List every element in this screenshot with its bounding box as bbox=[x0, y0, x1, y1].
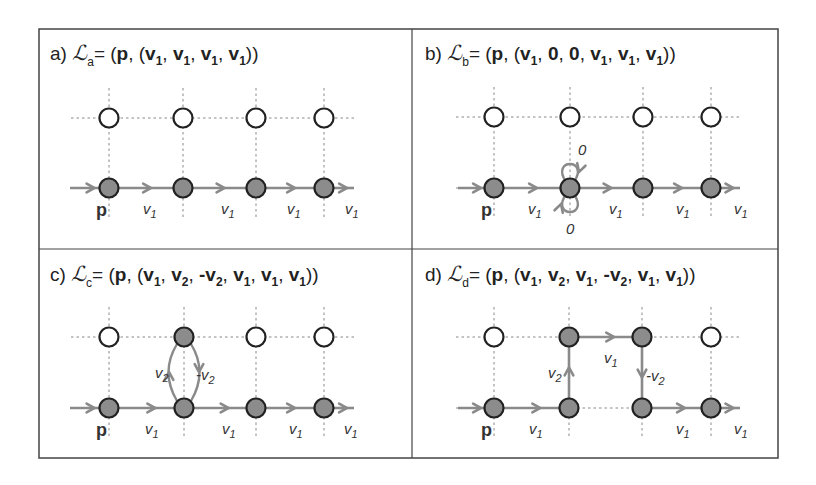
vector-label: v1 bbox=[345, 200, 359, 220]
vector-label: v1 bbox=[528, 200, 542, 220]
panels: a) ℒa= (p, (v1, v1, v1, v1))v1v1v1v1pb) … bbox=[50, 41, 748, 440]
vector-label: v1 bbox=[289, 420, 303, 440]
figure-frame bbox=[39, 29, 778, 458]
visited-node bbox=[175, 399, 194, 418]
start-point-label: p bbox=[481, 200, 492, 220]
lattice-grid bbox=[456, 87, 741, 218]
empty-node bbox=[485, 328, 504, 347]
panel-b: b) ℒb= (p, (v1, 0, 0, v1, v1, v1))v1v1v1… bbox=[425, 41, 748, 237]
visited-node bbox=[633, 399, 652, 418]
vector-label: v1 bbox=[143, 200, 157, 220]
empty-node bbox=[634, 108, 653, 127]
visited-node bbox=[485, 179, 504, 198]
vector-label: v1 bbox=[609, 200, 623, 220]
vector-label: v1 bbox=[221, 200, 235, 220]
vector-label: v1 bbox=[676, 420, 690, 440]
zero-label: 0 bbox=[566, 220, 575, 237]
lattice-grid bbox=[71, 88, 354, 218]
start-point-label: p bbox=[96, 200, 107, 220]
vector-label: v1 bbox=[604, 349, 618, 369]
empty-node bbox=[315, 328, 334, 347]
vector-label: v1 bbox=[734, 200, 748, 220]
vector-label: v1 bbox=[287, 200, 301, 220]
start-point-label: p bbox=[96, 420, 107, 440]
visited-node bbox=[560, 328, 579, 347]
vector-label: v1 bbox=[344, 420, 358, 440]
visited-node bbox=[174, 179, 193, 198]
vector-label: v1 bbox=[222, 420, 236, 440]
zero-label: 0 bbox=[578, 141, 587, 158]
path-segments: v1v1v1v1v2-v2 bbox=[70, 344, 358, 440]
vector-label: v2 bbox=[548, 364, 562, 384]
visited-node bbox=[247, 179, 266, 198]
lattice-nodes bbox=[485, 328, 721, 418]
visited-node bbox=[702, 179, 721, 198]
panel-title: a) ℒa= (p, (v1, v1, v1, v1)) bbox=[50, 41, 258, 69]
visited-node bbox=[315, 179, 334, 198]
arrow-icon bbox=[555, 204, 563, 213]
empty-node bbox=[485, 108, 504, 127]
visited-node bbox=[175, 328, 194, 347]
panel-title: c) ℒc= (p, (v1, v2, -v2, v1, v1, v1)) bbox=[50, 262, 319, 290]
empty-node bbox=[100, 328, 119, 347]
vector-label: v1 bbox=[145, 420, 159, 440]
visited-node bbox=[315, 399, 334, 418]
empty-node bbox=[247, 109, 266, 128]
visited-node bbox=[485, 399, 504, 418]
vector-label: -v2 bbox=[646, 367, 665, 387]
empty-node bbox=[561, 108, 580, 127]
lattice-grid bbox=[456, 307, 741, 438]
vector-label: v2 bbox=[155, 364, 169, 384]
figure-canvas: a) ℒa= (p, (v1, v1, v1, v1))v1v1v1v1pb) … bbox=[0, 0, 816, 485]
panel-a: a) ℒa= (p, (v1, v1, v1, v1))v1v1v1v1p bbox=[50, 41, 359, 220]
arrow-icon bbox=[577, 163, 585, 172]
visited-node bbox=[100, 179, 119, 198]
lattice-grid bbox=[71, 307, 354, 438]
empty-node bbox=[174, 109, 193, 128]
empty-node bbox=[315, 109, 334, 128]
visited-node bbox=[560, 399, 579, 418]
lattice-nodes bbox=[100, 328, 334, 418]
path-segments: v1v2v1-v2v1v1 bbox=[458, 333, 748, 440]
visited-node bbox=[634, 179, 653, 198]
empty-node bbox=[100, 109, 119, 128]
panel-title: d) ℒd= (p, (v1, v2, v1, -v2, v1, v1)) bbox=[425, 262, 695, 290]
empty-node bbox=[702, 328, 721, 347]
visited-node bbox=[100, 399, 119, 418]
visited-node bbox=[561, 179, 580, 198]
panel-title: b) ℒb= (p, (v1, 0, 0, v1, v1, v1)) bbox=[425, 41, 676, 69]
visited-node bbox=[702, 399, 721, 418]
visited-node bbox=[633, 328, 652, 347]
vector-label: v1 bbox=[676, 200, 690, 220]
panel-d: d) ℒd= (p, (v1, v2, v1, -v2, v1, v1))v1v… bbox=[425, 262, 748, 440]
vector-label: v1 bbox=[529, 420, 543, 440]
empty-node bbox=[247, 328, 266, 347]
empty-node bbox=[702, 108, 721, 127]
visited-node bbox=[247, 399, 266, 418]
outer-border bbox=[39, 29, 778, 458]
start-point-label: p bbox=[481, 420, 492, 440]
vector-label: v1 bbox=[734, 420, 748, 440]
panel-c: c) ℒc= (p, (v1, v2, -v2, v1, v1, v1))v1v… bbox=[50, 262, 358, 440]
